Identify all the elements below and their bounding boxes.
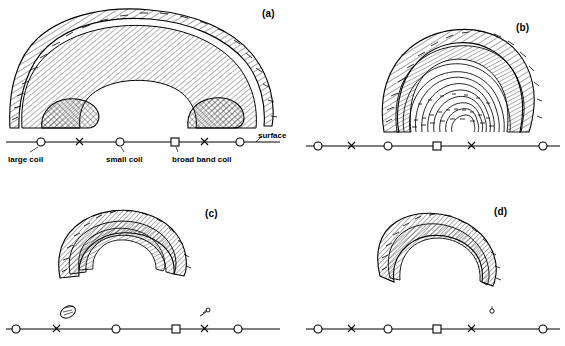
small-coil-label: small coil [106, 155, 142, 164]
figure-canvas [0, 0, 565, 346]
panel-c-speck-cluster [200, 308, 210, 316]
large-coil-label: large coil [8, 155, 43, 164]
panel-label-c: (c) [205, 208, 218, 219]
panel-c-structure [6, 210, 280, 333]
panel-label-d: (d) [494, 206, 507, 217]
broad-band-coil-label: broad band coil [172, 155, 232, 164]
panel-label-b: (b) [516, 22, 529, 33]
surface-label: surface [258, 131, 286, 140]
small-coil-leader [121, 147, 124, 152]
panel-d-speck [490, 306, 494, 313]
panel-b-structure [306, 29, 560, 150]
panel-c-detached-oval [58, 303, 77, 320]
panel-d-structure [306, 213, 560, 333]
panel-label-a: (a) [262, 8, 275, 19]
broad-band-coil-leader [176, 147, 178, 152]
panel-a-structure [6, 9, 280, 152]
large-coil-leader [30, 147, 38, 152]
